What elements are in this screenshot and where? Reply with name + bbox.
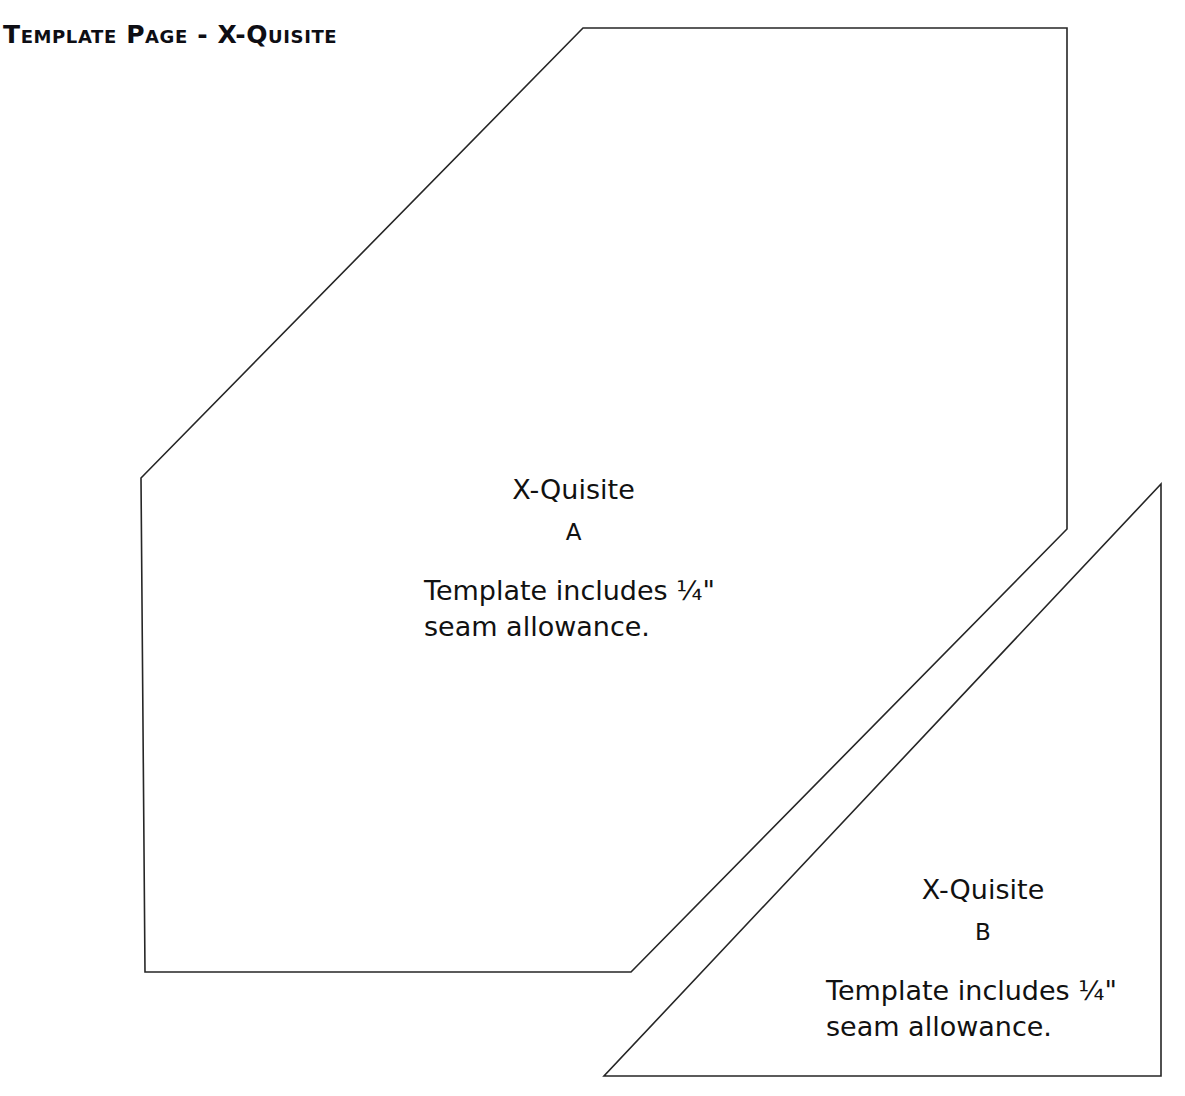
template-page: Template Page - X-Quisite X-Quisite A Te… (0, 0, 1185, 1096)
piece-b-letter: B (828, 919, 1138, 945)
piece-b-note-line-2: seam allowance. (826, 1009, 1138, 1045)
piece-a-name: X-Quisite (422, 474, 725, 505)
piece-a-note-line-2: seam allowance. (424, 609, 729, 645)
piece-b-note-line-1: Template includes ¼" (826, 973, 1138, 1009)
piece-b-label-block: X-Quisite B Template includes ¼" seam al… (826, 874, 1138, 1045)
piece-b-name: X-Quisite (828, 874, 1138, 905)
piece-a-letter: A (422, 519, 725, 545)
piece-a-label-block: X-Quisite A Template includes ¼" seam al… (424, 474, 729, 645)
piece-a-note-line-1: Template includes ¼" (424, 573, 729, 609)
